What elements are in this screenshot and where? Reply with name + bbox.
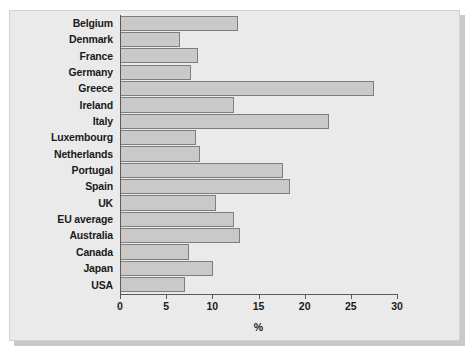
bar — [120, 16, 238, 31]
bar — [120, 163, 283, 178]
bar-category-label: Luxembourg — [10, 129, 113, 145]
bar-category-label: Ireland — [10, 97, 113, 113]
bar — [120, 97, 234, 112]
x-axis-title: % — [120, 321, 397, 333]
bar-row: Luxembourg — [10, 129, 461, 145]
bar-category-label: EU average — [10, 211, 113, 227]
y-axis-spine — [120, 15, 121, 294]
bar-category-label: Germany — [10, 64, 113, 80]
x-axis-tick — [397, 294, 398, 299]
bar-track — [120, 97, 450, 112]
bar-track — [120, 48, 450, 63]
x-axis-tick — [166, 294, 167, 299]
x-axis-tick-label: 30 — [391, 300, 403, 312]
bar-row: Ireland — [10, 97, 461, 113]
bar-track — [120, 130, 450, 145]
bar-category-label: Portugal — [10, 162, 113, 178]
bar — [120, 212, 234, 227]
bar-track — [120, 228, 450, 243]
bar-category-label: Italy — [10, 113, 113, 129]
bar-row: Denmark — [10, 31, 461, 47]
bar-row: Canada — [10, 244, 461, 260]
bar — [120, 195, 216, 210]
bar — [120, 81, 374, 96]
bar-row: Greece — [10, 80, 461, 96]
bar-track — [120, 244, 450, 259]
x-axis-tick-label: 10 — [206, 300, 218, 312]
bar-category-label: Belgium — [10, 15, 113, 31]
bar-row: UK — [10, 195, 461, 211]
bar-row: Australia — [10, 227, 461, 243]
bar — [120, 277, 185, 292]
x-axis-tick — [212, 294, 213, 299]
bar-category-label: Netherlands — [10, 146, 113, 162]
bar — [120, 65, 191, 80]
bar-category-label: Canada — [10, 244, 113, 260]
bar-track — [120, 81, 450, 96]
bar-category-label: Spain — [10, 178, 113, 194]
bar-category-label: Greece — [10, 80, 113, 96]
bar-row: Germany — [10, 64, 461, 80]
bar-row: EU average — [10, 211, 461, 227]
bar-category-label: Australia — [10, 227, 113, 243]
bar-row: Netherlands — [10, 146, 461, 162]
bar — [120, 261, 213, 276]
bar-category-label: UK — [10, 195, 113, 211]
bar-track — [120, 146, 450, 161]
bar-track — [120, 261, 450, 276]
bar-track — [120, 65, 450, 80]
bar-track — [120, 114, 450, 129]
x-axis-tick — [305, 294, 306, 299]
bar-track — [120, 32, 450, 47]
bar-row: Japan — [10, 260, 461, 276]
bar-track — [120, 179, 450, 194]
bar-chart-plot-area: BelgiumDenmarkFranceGermanyGreeceIreland… — [10, 11, 461, 342]
bar — [120, 48, 198, 63]
bar-row: Spain — [10, 178, 461, 194]
bar-category-label: USA — [10, 277, 113, 293]
bar-rows-container: BelgiumDenmarkFranceGermanyGreeceIreland… — [10, 15, 461, 293]
bar-category-label: Japan — [10, 260, 113, 276]
x-axis-tick — [351, 294, 352, 299]
bar-row: Italy — [10, 113, 461, 129]
x-axis-tick-label: 5 — [163, 300, 169, 312]
bar — [120, 228, 240, 243]
x-axis-tick-label: 0 — [117, 300, 123, 312]
bar — [120, 114, 329, 129]
bar — [120, 32, 180, 47]
x-axis-tick — [259, 294, 260, 299]
bar — [120, 244, 189, 259]
bar-row: Portugal — [10, 162, 461, 178]
bar-category-label: France — [10, 48, 113, 64]
bar — [120, 179, 290, 194]
bar — [120, 146, 200, 161]
bar-row: Belgium — [10, 15, 461, 31]
bar-track — [120, 212, 450, 227]
bar-category-label: Denmark — [10, 31, 113, 47]
bar-track — [120, 16, 450, 31]
bar-row: USA — [10, 277, 461, 293]
bar-row: France — [10, 48, 461, 64]
x-axis-tick-label: 15 — [253, 300, 265, 312]
x-axis-tick-label: 25 — [345, 300, 357, 312]
bar-track — [120, 277, 450, 292]
bar — [120, 130, 196, 145]
x-axis-tick — [120, 294, 121, 299]
bar-track — [120, 163, 450, 178]
bar-track — [120, 195, 450, 210]
x-axis-tick-label: 20 — [299, 300, 311, 312]
chart-figure-panel: BelgiumDenmarkFranceGermanyGreeceIreland… — [9, 10, 460, 341]
